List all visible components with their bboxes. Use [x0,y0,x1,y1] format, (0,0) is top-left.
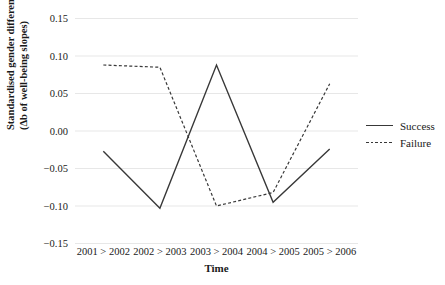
x-tick-label: 2001 > 2002 [77,246,130,258]
success-line [103,65,329,208]
dashed-line-swatch-icon [366,142,393,144]
y-tick-label: −0.10 [34,201,68,212]
x-tick-label: 2004 > 2005 [247,246,300,258]
y-tick-label: 0.00 [34,126,68,137]
legend-item-failure: Failure [366,134,435,151]
y-tick-label: −0.05 [34,163,68,174]
line-chart-figure: Standardised gender differences (Δb of w… [0,0,445,285]
solid-line-swatch-icon [366,125,393,126]
x-tick-label: 2002 > 2003 [133,246,186,258]
x-axis-title: Time [204,262,228,274]
y-tick-label: 0.10 [34,51,68,62]
y-tick-label: 0.15 [34,13,68,24]
legend: Success Failure [366,117,435,151]
y-tick-label: −0.15 [34,238,68,249]
y-tick-label: 0.05 [34,88,68,99]
legend-label-failure: Failure [400,137,431,149]
legend-item-success: Success [366,117,435,134]
x-tick-label: 2003 > 2004 [190,246,243,258]
legend-label-success: Success [400,120,435,132]
x-tick-label: 2005 > 2006 [303,246,356,258]
